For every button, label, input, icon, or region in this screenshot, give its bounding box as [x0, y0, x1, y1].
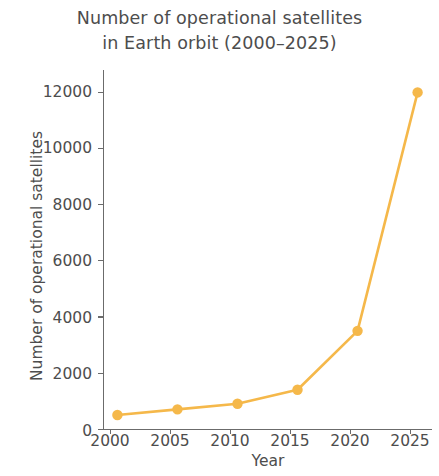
x-axis-tick	[170, 429, 171, 434]
data-point-2010	[232, 399, 242, 409]
x-tick-label-2020: 2020	[320, 432, 380, 450]
x-tick-label-2010: 2010	[200, 432, 260, 450]
y-tick-label-0: 0	[0, 422, 92, 440]
data-point-2020	[352, 326, 362, 336]
data-point-2025	[412, 87, 422, 97]
x-tick-label-2025: 2025	[380, 432, 439, 450]
x-tick-label-2000: 2000	[80, 432, 140, 450]
data-point-2015	[292, 385, 302, 395]
chart-figure: Number of operational satellites in Eart…	[0, 0, 439, 476]
series-line	[117, 92, 417, 415]
x-tick-label-2015: 2015	[260, 432, 320, 450]
y-tick-label-2000: 2000	[0, 365, 92, 383]
chart-title: Number of operational satellites in Eart…	[0, 6, 439, 56]
y-tick-label-6000: 6000	[0, 252, 92, 270]
x-tick-label-2005: 2005	[140, 432, 200, 450]
data-point-2000	[112, 410, 122, 420]
x-axis-tick	[290, 429, 291, 434]
x-axis-spine	[103, 429, 432, 430]
y-tick-label-4000: 4000	[0, 309, 92, 327]
series-satellites	[103, 70, 432, 429]
x-axis-tick	[350, 429, 351, 434]
data-point-2005	[172, 404, 182, 414]
y-tick-label-12000: 12000	[0, 83, 92, 101]
y-tick-label-10000: 10000	[0, 139, 92, 157]
y-tick-label-8000: 8000	[0, 196, 92, 214]
x-axis-tick	[230, 429, 231, 434]
x-axis-tick	[410, 429, 411, 434]
plot-area	[103, 70, 432, 429]
x-axis-tick	[110, 429, 111, 434]
x-axis-title: Year	[103, 452, 433, 470]
